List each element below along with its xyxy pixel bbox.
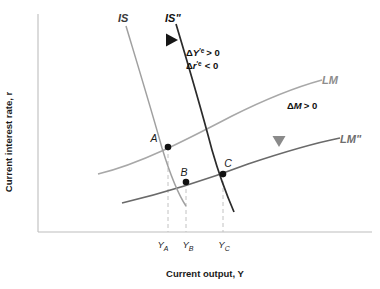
point-b-label: B xyxy=(180,166,187,178)
lm-shift-curve xyxy=(122,138,340,203)
lm-shift-arrow-head xyxy=(273,136,286,147)
y-prime-e-superscript: ′e xyxy=(199,47,205,54)
lm-shift-curve-label: LM" xyxy=(340,133,362,145)
x-axis-title-text: Current output, Y xyxy=(166,268,245,279)
m-relation: > 0 xyxy=(304,100,317,111)
is-shift-arrow-head xyxy=(166,34,178,47)
is-lm-diagram: A B C IS IS" LM LM" ΔY′e> 0 Δr′e< 0 ΔM> … xyxy=(0,0,380,289)
tick-yc-sub: C xyxy=(225,245,231,252)
is-curve xyxy=(126,26,186,206)
point-c-marker xyxy=(220,171,227,178)
y-axis-title-text: Current interest rate, r xyxy=(3,92,14,193)
point-b-marker xyxy=(183,179,190,186)
figure-canvas: A B C IS IS" LM LM" ΔY′e> 0 Δr′e< 0 ΔM> … xyxy=(0,0,380,289)
r-relation: < 0 xyxy=(205,60,218,71)
tick-label-yc: YC xyxy=(218,239,230,252)
point-c-label: C xyxy=(224,157,232,169)
is-shift-arrow xyxy=(130,34,178,47)
tick-yb-sub: B xyxy=(189,245,194,252)
delta-y-expected-line: ΔY′e> 0 xyxy=(186,47,220,58)
y-relation: > 0 xyxy=(206,47,219,58)
point-a-label: A xyxy=(149,132,157,144)
lm-curve xyxy=(98,80,322,174)
var-m: M xyxy=(294,100,303,111)
money-supply-annotation: ΔM> 0 xyxy=(287,100,317,111)
tick-label-yb: YB xyxy=(182,239,193,252)
tick-label-ya: YA xyxy=(157,239,168,252)
lm-shift-arrow xyxy=(273,92,286,147)
is-curve-label: IS xyxy=(118,12,129,24)
y-axis-title: Current interest rate, r xyxy=(3,92,14,193)
delta-r-expected-line: Δr′e< 0 xyxy=(186,60,218,71)
is-shift-effect-annotation: ΔY′e> 0 Δr′e< 0 xyxy=(186,47,220,71)
x-axis-title: Current output, Y xyxy=(166,268,245,279)
x-tick-labels: YA YB YC xyxy=(157,239,230,252)
r-prime-e-superscript: ′e xyxy=(197,60,203,67)
is-shift-curve-label: IS" xyxy=(165,12,181,24)
point-a-marker xyxy=(165,144,172,151)
lm-curve-label: LM xyxy=(322,74,339,86)
tick-ya-sub: A xyxy=(163,245,169,252)
